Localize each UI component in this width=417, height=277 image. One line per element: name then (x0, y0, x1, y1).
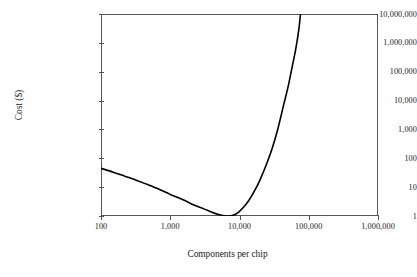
x-tick-label: 100 (61, 222, 141, 232)
y-tick-label: 1,000 (321, 125, 417, 134)
y-tick-label: 1,000,000 (321, 38, 417, 47)
y-tick-label: 10,000,000 (321, 10, 417, 19)
y-tick-label: 100 (321, 154, 417, 163)
x-tick-label: 100,000 (269, 222, 349, 232)
x-tick-mark (309, 215, 310, 220)
chart-page: 1101001,00010,000100,0001,000,00010,000,… (0, 0, 417, 277)
x-tick-label: 1,000,000 (338, 222, 417, 232)
x-tick-mark (170, 215, 171, 220)
cost-curve-path (101, 14, 301, 216)
x-tick-label: 1,000 (130, 222, 210, 232)
x-axis-title: Components per chip (0, 249, 417, 259)
y-tick-label: 10 (321, 183, 417, 192)
y-axis-title: Cost ($) (14, 65, 24, 145)
y-tick-label: 10,000 (321, 96, 417, 105)
y-tick-mark (99, 129, 104, 130)
x-tick-mark (240, 215, 241, 220)
x-tick-mark (378, 215, 379, 220)
y-tick-mark (99, 14, 104, 15)
y-tick-label: 100,000 (321, 67, 417, 76)
y-tick-mark (99, 158, 104, 159)
y-tick-label: 1 (321, 212, 417, 221)
y-tick-mark (99, 187, 104, 188)
y-tick-mark (99, 101, 104, 102)
y-tick-mark (99, 72, 104, 73)
y-tick-mark (99, 43, 104, 44)
x-tick-mark (101, 215, 102, 220)
x-tick-label: 10,000 (200, 222, 280, 232)
